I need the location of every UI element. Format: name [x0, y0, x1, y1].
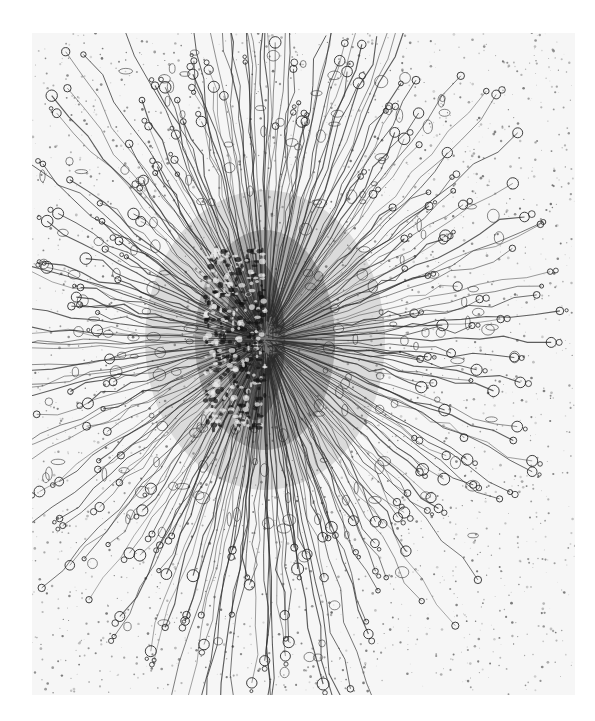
- rosette-structure: [32, 33, 575, 695]
- micrograph-photo: [32, 33, 575, 695]
